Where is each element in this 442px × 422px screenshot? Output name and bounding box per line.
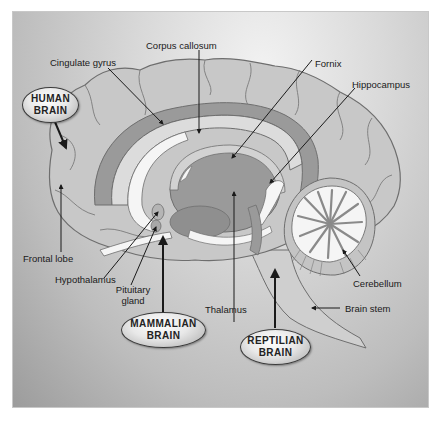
badge-human-line2: BRAIN [34, 105, 68, 117]
label-cerebellum: Cerebellum [353, 278, 402, 289]
label-thalamus: Thalamus [205, 304, 247, 315]
label-corpus-callosum: Corpus callosum [146, 40, 217, 51]
pituitary-shape [151, 220, 161, 232]
badge-mammalian-line1: MAMMALIAN [130, 318, 196, 330]
badge-mammalian-brain: MAMMALIAN BRAIN [121, 312, 206, 348]
label-pituitary-line1: Pituitary [110, 284, 156, 295]
badge-human-brain: HUMAN BRAIN [22, 87, 79, 123]
label-pituitary-line2: gland [110, 295, 156, 306]
badge-reptilian-line2: BRAIN [259, 347, 293, 359]
label-cingulate-gyrus: Cingulate gyrus [50, 57, 116, 68]
label-pituitary-gland: Pituitary gland [110, 284, 156, 306]
label-hippocampus: Hippocampus [352, 79, 410, 90]
label-brain-stem: Brain stem [345, 303, 390, 314]
label-frontal-lobe: Frontal lobe [23, 253, 73, 264]
badge-mammalian-line2: BRAIN [147, 330, 181, 342]
badge-reptilian-brain: REPTILIAN BRAIN [240, 329, 311, 365]
label-hypothalamus: Hypothalamus [55, 274, 116, 285]
badge-reptilian-line1: REPTILIAN [247, 335, 303, 347]
label-fornix: Fornix [315, 58, 341, 69]
badge-human-line1: HUMAN [31, 93, 70, 105]
